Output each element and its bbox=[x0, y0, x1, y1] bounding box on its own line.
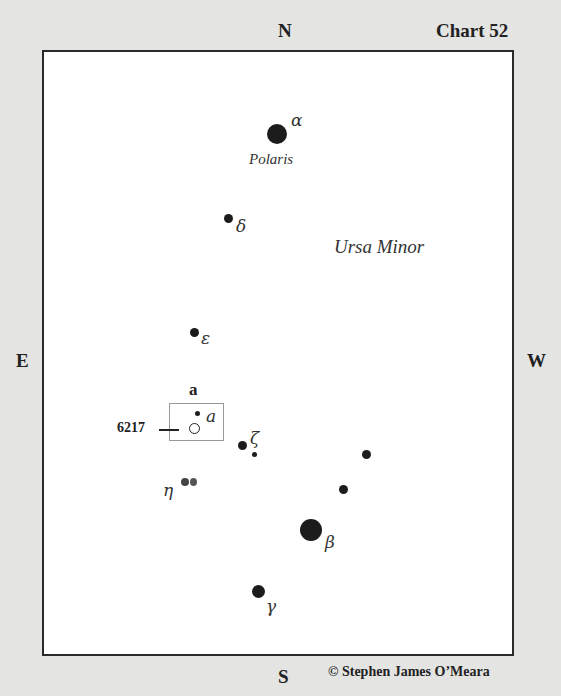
label-star-a: a bbox=[206, 406, 216, 426]
chart-number-label: Chart 52 bbox=[436, 20, 508, 42]
label-gamma: γ bbox=[266, 596, 276, 616]
label-alpha: α bbox=[291, 110, 302, 130]
constellation-name: Ursa Minor bbox=[334, 236, 424, 258]
ngc-6217-galaxy-marker bbox=[189, 423, 200, 434]
label-polaris: Polaris bbox=[249, 151, 293, 168]
east-label: E bbox=[16, 350, 29, 372]
star-zeta-companion bbox=[252, 452, 257, 457]
star-zeta bbox=[238, 441, 247, 450]
star-eta bbox=[181, 478, 189, 486]
object-box-label: a bbox=[189, 380, 198, 400]
ngc-number-label: 6217 bbox=[117, 420, 145, 436]
label-eta: η bbox=[163, 480, 173, 500]
star-delta bbox=[224, 214, 233, 223]
star-a-small bbox=[195, 411, 200, 416]
south-label: S bbox=[278, 666, 289, 688]
north-label: N bbox=[278, 20, 292, 42]
copyright-credit: © Stephen James O’Meara bbox=[328, 664, 490, 680]
star-unlabeled-2 bbox=[339, 485, 348, 494]
star-eta-companion bbox=[190, 478, 197, 486]
label-beta: β bbox=[325, 532, 335, 552]
star-beta bbox=[300, 519, 322, 541]
west-label: W bbox=[527, 350, 546, 372]
label-epsilon: ε bbox=[201, 328, 210, 348]
label-delta: δ bbox=[236, 216, 246, 236]
label-zeta: ζ bbox=[250, 428, 259, 448]
star-gamma bbox=[252, 585, 265, 598]
star-alpha-polaris bbox=[267, 124, 287, 144]
ngc-pointer-line bbox=[159, 429, 179, 431]
star-unlabeled-1 bbox=[362, 450, 371, 459]
star-epsilon bbox=[190, 328, 199, 337]
